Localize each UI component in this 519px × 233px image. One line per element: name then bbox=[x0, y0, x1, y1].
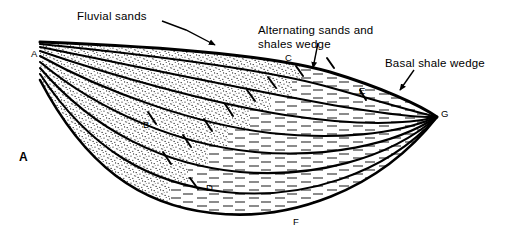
leader-fluvial-sands bbox=[162, 21, 215, 45]
label-alternating-line2: shales wedge bbox=[258, 38, 373, 52]
point-label-d: D bbox=[206, 182, 213, 193]
point-label-b: B bbox=[143, 119, 149, 130]
point-label-g: G bbox=[441, 108, 448, 119]
point-label-f: F bbox=[293, 216, 299, 227]
point-label-e: E bbox=[359, 85, 365, 96]
point-label-c: C bbox=[285, 52, 292, 63]
facies-tick bbox=[327, 58, 334, 68]
label-basal-shale-wedge: Basal shale wedge bbox=[385, 57, 485, 71]
leader-basal-shale bbox=[400, 70, 414, 90]
point-label-a: A bbox=[31, 48, 37, 59]
figure-caption: A bbox=[19, 150, 28, 164]
label-fluvial-sands: Fluvial sands bbox=[77, 10, 147, 24]
label-alternating-line1: Alternating sands and bbox=[258, 24, 373, 38]
label-alternating-sands-shales: Alternating sands and shales wedge bbox=[258, 24, 373, 51]
